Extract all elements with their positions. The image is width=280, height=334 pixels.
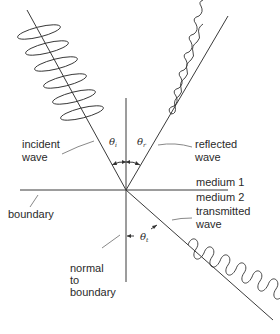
transmitted-leader [172,218,192,220]
boundary-leader [30,195,38,207]
transmitted-label-line2: wave [195,218,222,230]
normal-label-line3: boundary [70,286,116,298]
medium2-label: medium 2 [196,191,244,203]
boundary-label: boundary [8,208,54,220]
arrowhead [122,160,126,164]
normal-label-line1: normal [70,262,104,274]
theta-i-label: θi [109,136,117,148]
normal-leader [102,235,120,248]
incident-label-line2: wave [21,151,48,163]
arrowhead [127,234,131,238]
incident-ray [27,10,126,190]
medium1-label: medium 1 [196,176,244,188]
theta-r-label: θr [137,136,147,148]
arrowhead [135,161,140,165]
arrowhead [112,161,117,165]
transmitted-label-line1: transmitted [196,205,250,217]
wave-reflection-diagram: θi θr θt incident wave reflected wave bo… [0,0,280,334]
transmitted-wave-oscillation [188,239,280,299]
reflected-wave-oscillation [169,0,203,114]
normal-label-line2: to [70,274,79,286]
incident-leader [62,141,94,154]
arrowhead [126,160,130,164]
reflected-label-line1: reflected [195,138,237,150]
incident-wave-oscillation [16,22,104,123]
incident-label-line1: incident [22,138,60,150]
reflected-leader [158,144,192,147]
theta-t-label: θt [140,231,149,243]
reflected-label-line2: wave [194,151,221,163]
